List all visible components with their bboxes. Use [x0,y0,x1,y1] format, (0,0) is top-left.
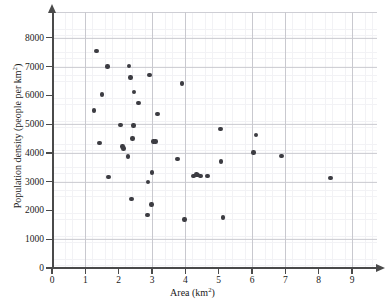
data-point [129,197,133,201]
data-point [131,123,135,127]
y-axis-tick [46,124,52,125]
x-axis-title-text: Area (km [170,287,208,298]
y-axis-tick-label: 2000 [25,205,44,215]
data-point [279,154,283,158]
data-point [205,174,209,178]
data-point [118,123,122,127]
x-axis-title-tail: ) [212,287,215,298]
y-axis-tick [46,181,52,182]
data-point [218,127,222,131]
data-point [105,64,109,68]
y-axis-tick-label: 3000 [25,177,44,187]
data-point [251,150,255,154]
y-axis-tick [46,210,52,211]
scatter-chart-figure: 010002000300040005000600070008000 012345… [0,0,385,303]
data-point [97,141,101,145]
y-axis-tick [46,95,52,96]
data-point [155,112,159,116]
x-axis-tick [318,269,319,274]
data-point [128,75,132,79]
data-point [147,73,151,77]
y-axis-arrow-icon [48,4,56,13]
y-axis-tick-label: 1000 [25,234,44,244]
y-axis-tick-label: 7000 [25,62,44,72]
data-point [94,49,98,53]
y-axis-tick-label: 4000 [25,148,44,158]
data-point [106,175,110,179]
data-point [145,213,149,217]
x-axis-tick [151,269,152,274]
x-axis-tick [51,269,52,274]
y-axis-tick-label: 6000 [25,90,44,100]
x-axis-tick-label: 3 [150,275,155,285]
x-axis-tick [218,269,219,274]
data-point [221,215,225,219]
y-axis-tick-label: 5000 [25,119,44,129]
data-point [130,136,134,140]
x-axis-tick-label: 9 [350,275,355,285]
y-axis-tick [46,66,52,67]
y-axis-tick-label: 8000 [25,33,44,43]
data-point [198,174,202,178]
y-axis-line [52,12,54,268]
data-point [100,92,104,96]
y-axis-title-text: Population density (people per km [12,71,23,209]
y-axis-tick-label: 0 [39,263,44,273]
y-axis-title-superscript: 2 [11,67,18,70]
data-point [219,159,223,163]
x-axis-tick-label: 1 [83,275,88,285]
data-point [150,170,154,174]
x-axis-tick-label: 0 [50,275,55,285]
major-gridlines [52,12,377,268]
x-axis-tick-label: 8 [316,275,321,285]
y-axis-tick [46,37,52,38]
x-axis-tick [85,269,86,274]
x-axis-tick [251,269,252,274]
data-point [328,176,332,180]
y-axis-title: Population density (people per km2) [12,26,24,246]
x-axis-tick [351,269,352,274]
data-point [153,139,157,143]
data-point [180,81,184,85]
x-axis-tick [118,269,119,274]
x-axis-tick-label: 2 [116,275,121,285]
x-axis-arrow-icon [376,264,385,272]
data-point [182,217,186,221]
x-axis-tick-label: 4 [183,275,188,285]
y-axis-title-tail: ) [12,64,23,67]
x-axis-tick-label: 7 [283,275,288,285]
data-point [126,154,130,158]
plot-area [52,12,377,268]
x-axis-tick-label: 5 [216,275,221,285]
data-point [149,202,153,206]
x-axis-tick [185,269,186,274]
x-axis-tick [285,269,286,274]
data-point [92,108,96,112]
x-axis-title: Area (km2) [0,287,385,299]
data-point [175,157,179,161]
y-axis-tick [46,239,52,240]
x-axis-line [52,267,377,269]
x-axis-tick-label: 6 [250,275,255,285]
data-point [121,146,125,150]
y-axis-tick [46,152,52,153]
